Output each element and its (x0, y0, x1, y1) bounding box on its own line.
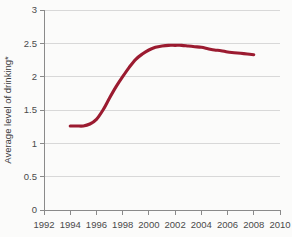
x-tick-label: 2000 (138, 219, 159, 230)
x-tick-label: 1992 (33, 219, 54, 230)
y-tick-label: 0 (32, 204, 37, 215)
line-chart-figure: 00.511.522.53 19921994199619982000200220… (0, 0, 292, 237)
y-tick-label: 1 (32, 138, 37, 149)
x-tick-label: 2010 (269, 219, 290, 230)
y-tick-label: 0.5 (24, 171, 37, 182)
y-tick-label: 2.5 (24, 38, 37, 49)
x-tick-label: 1994 (60, 219, 81, 230)
x-tick-label: 1996 (86, 219, 107, 230)
x-tick-label: 2002 (165, 219, 186, 230)
x-tick-label: 2004 (191, 219, 212, 230)
y-tick-label: 1.5 (24, 104, 37, 115)
x-tick-label: 1998 (112, 219, 133, 230)
x-tick-label: 2008 (243, 219, 264, 230)
y-tick-label: 2 (32, 71, 37, 82)
chart-canvas: 00.511.522.53 19921994199619982000200220… (0, 0, 292, 237)
y-axis-title: Average level of drinking* (2, 56, 13, 164)
x-tick-label: 2006 (217, 219, 238, 230)
y-tick-label: 3 (32, 4, 37, 15)
